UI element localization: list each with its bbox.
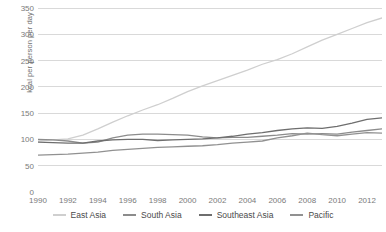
legend-swatch-icon [53, 214, 66, 216]
line-chart: kcal per person per day 0501001502002503… [0, 0, 386, 232]
legend-item[interactable]: East Asia [53, 210, 106, 220]
x-tick-label: 2002 [209, 196, 227, 205]
x-tick-label: 2004 [238, 196, 256, 205]
y-tick-label: 250 [21, 56, 34, 65]
x-tick-label: 1996 [119, 196, 137, 205]
y-tick-label: 50 [25, 161, 34, 170]
y-tick-label: 100 [21, 135, 34, 144]
legend-item[interactable]: Pacific [290, 210, 333, 220]
legend-item[interactable]: South Asia [123, 210, 182, 220]
legend-label: South Asia [141, 210, 182, 220]
y-tick-label: 300 [21, 30, 34, 39]
series-line [38, 133, 382, 156]
y-tick-label: 200 [21, 82, 34, 91]
legend-item[interactable]: Southeast Asia [199, 210, 274, 220]
x-tick-label: 2010 [328, 196, 346, 205]
x-tick-label: 1992 [59, 196, 77, 205]
x-tick-label: 2000 [179, 196, 197, 205]
x-tick-label: 1994 [89, 196, 107, 205]
y-tick-label: 150 [21, 109, 34, 118]
plot-canvas [38, 8, 382, 192]
x-tick-label: 1990 [29, 196, 47, 205]
x-tick-label: 2008 [298, 196, 316, 205]
x-tick-label: 1998 [149, 196, 167, 205]
legend-label: Southeast Asia [217, 210, 274, 220]
legend-swatch-icon [199, 214, 212, 216]
legend-swatch-icon [123, 214, 136, 216]
x-tick-label: 2012 [358, 196, 376, 205]
legend-label: Pacific [308, 210, 333, 220]
y-tick-label: 350 [21, 4, 34, 13]
series-line [38, 129, 382, 143]
chart-legend: East AsiaSouth AsiaSoutheast AsiaPacific [0, 210, 386, 220]
x-tick-label: 2006 [268, 196, 286, 205]
series-line [38, 18, 382, 141]
gridlines [38, 8, 382, 192]
plot-area: 050100150200250300350 199019921994199619… [38, 8, 382, 192]
legend-swatch-icon [290, 214, 303, 216]
legend-label: East Asia [71, 210, 106, 220]
